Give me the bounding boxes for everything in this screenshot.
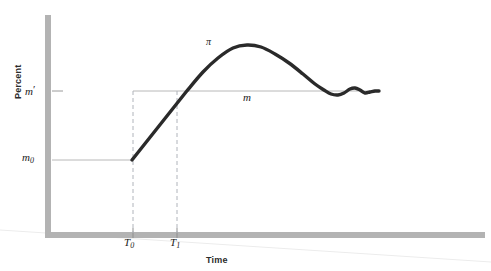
curve-label-m: m	[243, 92, 251, 103]
y-tick-label-m-prime: m′	[25, 84, 35, 97]
x-axis-title: Time	[206, 256, 228, 265]
m-prime-base: m	[25, 85, 33, 97]
m-zero-base: m	[22, 151, 30, 163]
x-tick-label-t-one: T1	[170, 237, 180, 250]
m-zero-subscript: 0	[30, 156, 34, 165]
m-prime-mark: ′	[33, 83, 35, 95]
plot-area	[0, 0, 491, 271]
figure-container: Percent Time m′ m0 T0 T1 π m	[0, 0, 491, 271]
x-axis-bar	[45, 232, 485, 238]
curve-label-pi: π	[206, 37, 211, 47]
y-axis-bar	[45, 15, 51, 238]
t-zero-subscript: 0	[130, 241, 134, 250]
y-tick-label-m-zero: m0	[22, 152, 34, 165]
y-axis-title: Percent	[14, 65, 23, 99]
x-tick-label-t-zero: T0	[124, 237, 134, 250]
pi-response-curve	[132, 45, 379, 160]
t-one-subscript: 1	[176, 241, 180, 250]
